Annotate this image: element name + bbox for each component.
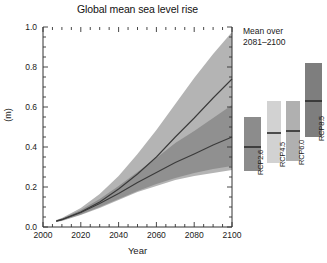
range-bar-label-rcp2-6: RCP2.6 xyxy=(256,150,265,175)
range-bar-label-rcp8-5: RCP8.5 xyxy=(317,116,326,141)
y-axis-label: (m) xyxy=(3,100,13,130)
x-tick-label: 2060 xyxy=(136,231,176,240)
range-bar-label-rcp4-5: RCP4.5 xyxy=(278,142,287,167)
x-tick-label: 2100 xyxy=(212,231,252,240)
x-tick-label: 2040 xyxy=(99,231,139,240)
x-tick-label: 2020 xyxy=(61,231,101,240)
sea-level-rise-figure: Global mean sea level rise 0.00.20.40.60… xyxy=(0,0,327,263)
range-bar-label-rcp6-0: RCP6.0 xyxy=(297,140,306,165)
x-axis-label: Year xyxy=(43,245,232,256)
side-panel-title: Mean over 2081–2100 xyxy=(243,26,327,48)
x-tick-label: 2080 xyxy=(174,231,214,240)
side-panel-title-line2: 2081–2100 xyxy=(243,37,327,48)
side-panel-title-line1: Mean over xyxy=(243,26,327,37)
x-tick-label: 2000 xyxy=(23,231,63,240)
